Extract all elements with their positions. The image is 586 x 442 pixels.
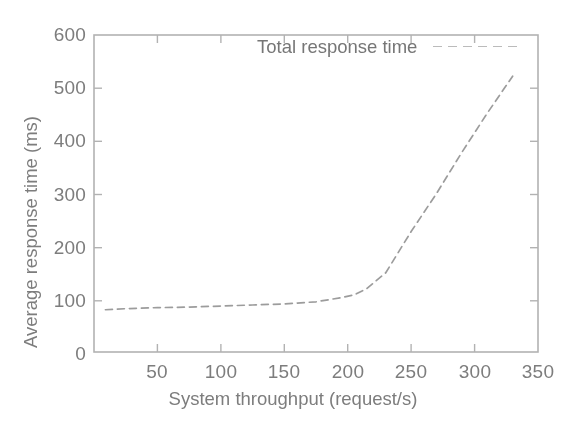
legend-entry-label: Total response time	[257, 36, 417, 58]
series-total-response-time	[105, 76, 512, 310]
y-axis-title: Average response time (ms)	[20, 116, 42, 348]
y-tick-label-600: 600	[16, 24, 86, 46]
x-axis-ticks	[157, 35, 474, 352]
x-axis-title: System throughput (request/s)	[169, 388, 418, 410]
x-tick-label-250: 250	[395, 361, 427, 383]
figure-chart: 600 500 400 300 200 100 0 50 100 150 200…	[0, 0, 586, 442]
y-tick-label-500: 500	[16, 77, 86, 99]
legend-dashed-line-swatch	[433, 46, 519, 48]
x-tick-label-300: 300	[459, 361, 491, 383]
x-tick-label-150: 150	[268, 361, 300, 383]
x-tick-label-50: 50	[146, 361, 168, 383]
plot-frame	[94, 35, 538, 352]
x-tick-label-200: 200	[332, 361, 364, 383]
x-tick-label-350: 350	[522, 361, 554, 383]
plot-border	[94, 35, 538, 352]
x-tick-label-100: 100	[205, 361, 237, 383]
legend: Total response time	[257, 36, 519, 58]
y-axis-ticks	[94, 88, 538, 301]
